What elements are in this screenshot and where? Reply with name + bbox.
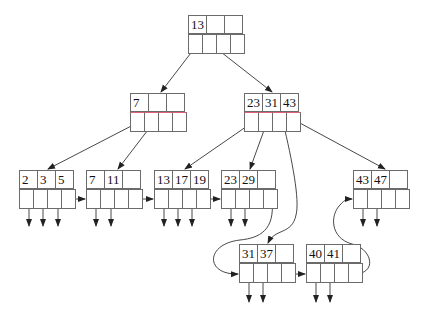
pointer-slot (230, 34, 245, 54)
pointer-slot (168, 189, 183, 209)
pointer-slot (239, 263, 254, 283)
pointer-slot (33, 189, 48, 209)
pointer-slot (158, 112, 173, 132)
pointer-slot (267, 263, 282, 283)
pointer-slot (395, 189, 410, 209)
pointer-slot (188, 34, 203, 54)
pointer-slot (144, 112, 159, 132)
key (148, 93, 167, 112)
key (257, 170, 276, 189)
pointer-slot (272, 112, 287, 132)
key: 43 (280, 93, 299, 112)
edge-23-to-leaf3 (185, 122, 253, 169)
key (206, 15, 225, 34)
pointer-slot (47, 189, 62, 209)
pointer-slot (19, 189, 34, 209)
edge-43-to-leaf7 (298, 122, 385, 169)
pointer-slot (182, 189, 197, 209)
key (224, 15, 243, 34)
key: 47 (371, 170, 390, 189)
pointer-slot (216, 34, 231, 54)
pointer-slot (100, 189, 115, 209)
edge-7-to-leaf1 (48, 122, 139, 169)
key: 40 (306, 244, 325, 263)
key: 19 (190, 170, 209, 189)
pointer-slot (128, 189, 143, 209)
key: 43 (353, 170, 372, 189)
key (122, 170, 141, 189)
pointer-slot (348, 263, 363, 283)
pointer-slot (320, 263, 335, 283)
key: 5 (55, 170, 74, 189)
key (166, 93, 185, 112)
pointer-slot (381, 189, 396, 209)
key: 29 (239, 170, 258, 189)
pointer-slot (61, 189, 76, 209)
key: 2 (19, 170, 38, 189)
key: 7 (86, 170, 105, 189)
key: 41 (324, 244, 343, 263)
pointer-slot (196, 189, 211, 209)
pointer-slot (244, 112, 259, 132)
pointer-slot (235, 189, 250, 209)
pointer-slot (286, 112, 301, 132)
key (342, 244, 361, 263)
pointer-slot (263, 189, 278, 209)
key: 17 (172, 170, 191, 189)
key (389, 170, 408, 189)
key: 37 (257, 244, 276, 263)
key: 31 (262, 93, 281, 112)
pointer-slot (249, 189, 264, 209)
key: 3 (37, 170, 56, 189)
pointer-slot (367, 189, 382, 209)
key: 13 (154, 170, 173, 189)
pointer-slot (130, 112, 145, 132)
pointer-slot (334, 263, 349, 283)
key: 31 (239, 244, 258, 263)
key (275, 244, 294, 263)
pointer-slot (221, 189, 236, 209)
pointer-slot (114, 189, 129, 209)
key: 7 (130, 93, 149, 112)
key: 23 (221, 170, 240, 189)
pointer-slot (306, 263, 321, 283)
key: 11 (104, 170, 123, 189)
pointer-slot (353, 189, 368, 209)
pointer-slot (253, 263, 268, 283)
key: 23 (244, 93, 263, 112)
pointer-slot (172, 112, 187, 132)
pointer-slot (154, 189, 169, 209)
pointer-slot (281, 263, 296, 283)
pointer-slot (202, 34, 217, 54)
pointer-slot (86, 189, 101, 209)
key: 13 (188, 15, 207, 34)
pointer-slot (258, 112, 273, 132)
